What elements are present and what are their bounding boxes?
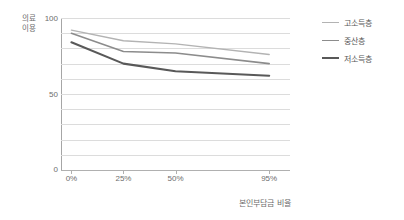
series-line [71, 42, 269, 75]
x-axis-title: 본인부담금 비율 [190, 197, 340, 208]
x-tick-label-0: 0% [51, 174, 91, 183]
y-tick-label-50: 50 [36, 90, 58, 99]
legend: 고소득층 중산층 저소득층 [322, 13, 402, 67]
x-tick-label-1: 25% [103, 174, 143, 183]
legend-line-swatch-middle-class [322, 40, 339, 41]
legend-line-swatch-high-income [322, 22, 339, 23]
x-axis-tick-labels: 0% 25% 50% 95% [61, 174, 290, 188]
series-line [71, 33, 269, 63]
x-tick-label-2: 50% [156, 174, 196, 183]
legend-label-high-income: 고소득층 [344, 17, 372, 28]
y-axis-title: 의료이용 [22, 14, 36, 33]
y-tick-label-0: 0 [36, 165, 58, 174]
line-chart: 의료이용 100 50 0 0% 25% 50% 95% 본인부담금 비율 고소… [0, 0, 404, 220]
legend-line-swatch-low-income [322, 57, 339, 59]
x-tick-label-3: 95% [249, 174, 289, 183]
legend-item: 고소득층 [322, 13, 402, 31]
series-line [71, 30, 269, 54]
plot-area [61, 18, 290, 170]
legend-item: 중산층 [322, 31, 402, 49]
legend-label-low-income: 저소득층 [344, 53, 372, 64]
y-axis-tick-labels: 100 50 0 [36, 0, 58, 220]
series-lines [61, 18, 290, 170]
legend-item: 저소득층 [322, 49, 402, 67]
legend-label-middle-class: 중산층 [344, 35, 365, 46]
y-tick-label-100: 100 [36, 14, 58, 23]
